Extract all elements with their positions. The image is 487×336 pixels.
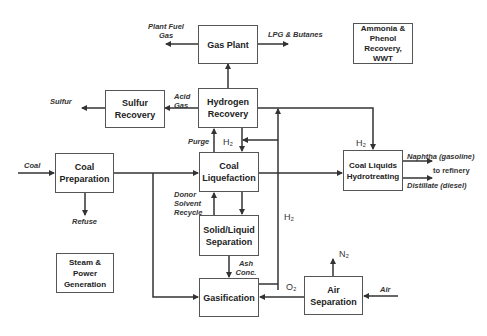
o2-label: O₂ [286,283,297,292]
air-label: Air [380,285,390,294]
h2-hydrotreat-label: H₂ [356,139,366,148]
gas-plant-box: Gas Plant [198,25,258,64]
n2-label: N₂ [339,250,349,259]
sulfur-recovery-box: Sulfur Recovery [105,90,165,128]
distillate-label: Distillate (diesel) [407,181,467,190]
sulfur-label: Sulfur [50,97,72,106]
coal-preparation-box: Coal Preparation [55,153,114,193]
purge-label: Purge [188,137,209,146]
air-separation-box: Air Separation [304,276,363,315]
naphtha-label: Naphtha (gasoline) [407,152,475,161]
ash-conc-label: Ash Conc. [233,259,259,277]
plant-fuel-gas-label: Plant Fuel Gas [148,22,184,40]
solid-liquid-separation-box: Solid/Liquid Separation [199,215,259,256]
steam-power-generation-box: Steam & Power Generation [56,253,114,293]
lpg-butanes-label: LPG & Butanes [268,30,323,39]
ammonia-phenol-recovery-box: Ammonia & Phenol Recovery, WWT [353,23,413,64]
donor-solvent-recycle-label: Donor Solvent Recycle [174,190,204,217]
coal-feed-label: Coal [24,161,40,170]
to-refinery-label: to refinery [433,166,470,175]
coal-liquids-hydrotreating-box: Coal Liquids Hydrotreating [343,150,403,191]
hydrogen-recovery-box: Hydrogen Recovery [198,88,258,128]
coal-liquefaction-box: Coal Liquefaction [199,152,259,192]
h2-recovery-to-liquefaction-label: H₂ [223,138,233,147]
refuse-label: Refuse [72,217,97,226]
h2-gasification-label: H₂ [284,213,294,222]
acid-gas-label: Acid Gas [174,92,196,110]
gasification-box: Gasification [199,278,259,317]
